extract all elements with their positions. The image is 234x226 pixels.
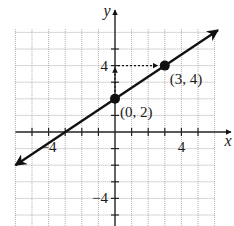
y-tick-label: 4 — [101, 58, 109, 74]
chart: −444−4xy(0, 2)(3, 4) — [0, 0, 234, 226]
data-point — [160, 61, 170, 71]
data-point-label: (0, 2) — [120, 104, 153, 121]
x-tick-label: 4 — [178, 139, 186, 155]
y-axis-label: y — [101, 2, 111, 20]
y-tick-label: −4 — [92, 190, 108, 206]
annotations — [115, 66, 158, 92]
x-axis-label: x — [223, 132, 231, 149]
data-point-label: (3, 4) — [170, 71, 203, 88]
data-point — [110, 94, 120, 104]
x-tick-label: −4 — [41, 139, 57, 155]
